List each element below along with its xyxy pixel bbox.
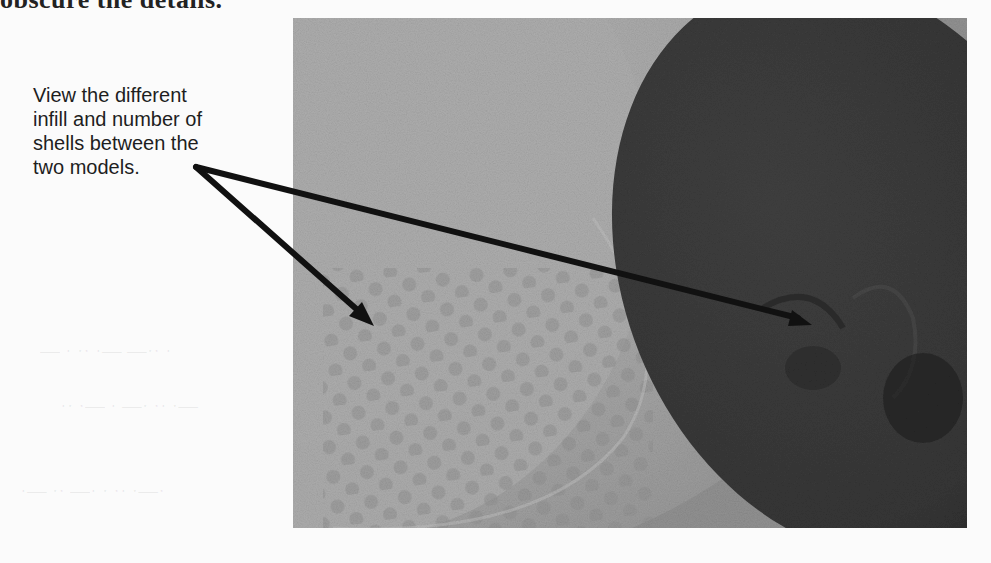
- bleed-through-text: — · ·· ·— —·· ·: [40, 340, 172, 363]
- model-comparison-photo: [293, 18, 967, 528]
- bleed-through-text: ·· ·— · —· ·· ·—: [60, 395, 198, 418]
- callout-line: infill and number of: [33, 107, 243, 131]
- callout-text: View the different infill and number of …: [33, 83, 243, 179]
- text-fragment-top: obscure the details.: [0, 0, 223, 15]
- callout-line: View the different: [33, 83, 243, 107]
- bleed-through-text: ·— ·· —· · ·· ·—·: [20, 480, 165, 503]
- callout-line: shells between the: [33, 131, 243, 155]
- callout-line: two models.: [33, 155, 243, 179]
